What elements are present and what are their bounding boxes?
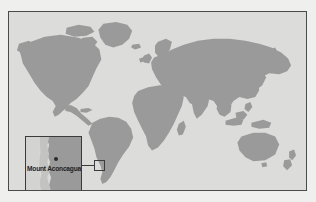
aconcagua-peak-marker (54, 157, 58, 161)
inset-detail-map: Mount Aconcagua (25, 136, 82, 191)
inset-pacific-ocean (26, 137, 40, 191)
inset-leader-line (81, 165, 95, 166)
aconcagua-label: Mount Aconcagua (27, 165, 81, 173)
inset-map-graphic (26, 137, 81, 191)
locator-map-figure: Mount Aconcagua (0, 0, 316, 202)
inset-land-argentina (46, 137, 81, 191)
locator-box (94, 160, 105, 171)
world-map-frame: Mount Aconcagua (8, 11, 307, 191)
